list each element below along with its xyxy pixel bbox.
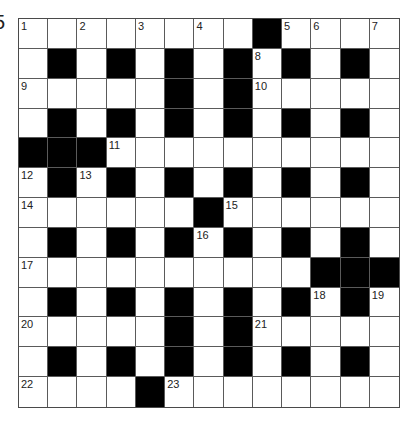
answer-cell[interactable]	[311, 228, 340, 258]
answer-cell[interactable]	[341, 317, 370, 347]
answer-cell[interactable]: 6	[311, 19, 340, 49]
answer-cell[interactable]	[311, 198, 340, 228]
answer-cell[interactable]: 22	[19, 377, 48, 407]
answer-cell[interactable]: 1	[19, 19, 48, 49]
answer-cell[interactable]	[370, 317, 399, 347]
answer-cell[interactable]	[19, 288, 48, 318]
answer-cell[interactable]	[370, 347, 399, 377]
answer-cell[interactable]	[77, 228, 106, 258]
answer-cell[interactable]	[282, 198, 311, 228]
answer-cell[interactable]: 23	[165, 377, 194, 407]
answer-cell[interactable]	[107, 79, 136, 109]
answer-cell[interactable]	[253, 228, 282, 258]
answer-cell[interactable]	[253, 288, 282, 318]
answer-cell[interactable]: 9	[19, 79, 48, 109]
answer-cell[interactable]	[194, 288, 223, 318]
answer-cell[interactable]	[194, 258, 223, 288]
answer-cell[interactable]	[253, 347, 282, 377]
answer-cell[interactable]	[48, 19, 77, 49]
answer-cell[interactable]	[77, 317, 106, 347]
answer-cell[interactable]	[136, 198, 165, 228]
answer-cell[interactable]	[370, 168, 399, 198]
answer-cell[interactable]	[253, 198, 282, 228]
answer-cell[interactable]	[77, 109, 106, 139]
answer-cell[interactable]: 3	[136, 19, 165, 49]
answer-cell[interactable]	[370, 198, 399, 228]
answer-cell[interactable]	[136, 228, 165, 258]
answer-cell[interactable]: 14	[19, 198, 48, 228]
answer-cell[interactable]	[165, 138, 194, 168]
answer-cell[interactable]	[311, 138, 340, 168]
answer-cell[interactable]	[311, 109, 340, 139]
answer-cell[interactable]	[136, 49, 165, 79]
answer-cell[interactable]	[311, 168, 340, 198]
answer-cell[interactable]	[370, 228, 399, 258]
answer-cell[interactable]	[136, 258, 165, 288]
answer-cell[interactable]: 10	[253, 79, 282, 109]
answer-cell[interactable]	[107, 198, 136, 228]
answer-cell[interactable]	[253, 168, 282, 198]
answer-cell[interactable]	[77, 79, 106, 109]
answer-cell[interactable]	[370, 138, 399, 168]
answer-cell[interactable]	[194, 317, 223, 347]
answer-cell[interactable]	[370, 377, 399, 407]
answer-cell[interactable]	[253, 258, 282, 288]
answer-cell[interactable]	[136, 79, 165, 109]
answer-cell[interactable]	[311, 79, 340, 109]
answer-cell[interactable]	[194, 168, 223, 198]
answer-cell[interactable]: 8	[253, 49, 282, 79]
answer-cell[interactable]	[341, 138, 370, 168]
answer-cell[interactable]	[194, 49, 223, 79]
answer-cell[interactable]	[370, 49, 399, 79]
answer-cell[interactable]	[165, 19, 194, 49]
answer-cell[interactable]	[282, 258, 311, 288]
answer-cell[interactable]	[282, 79, 311, 109]
answer-cell[interactable]	[224, 258, 253, 288]
answer-cell[interactable]	[77, 198, 106, 228]
answer-cell[interactable]	[19, 109, 48, 139]
answer-cell[interactable]	[341, 79, 370, 109]
answer-cell[interactable]	[77, 288, 106, 318]
answer-cell[interactable]: 13	[77, 168, 106, 198]
answer-cell[interactable]	[136, 168, 165, 198]
answer-cell[interactable]	[370, 109, 399, 139]
answer-cell[interactable]	[19, 228, 48, 258]
answer-cell[interactable]: 21	[253, 317, 282, 347]
answer-cell[interactable]	[48, 317, 77, 347]
answer-cell[interactable]	[341, 377, 370, 407]
answer-cell[interactable]	[136, 317, 165, 347]
answer-cell[interactable]: 19	[370, 288, 399, 318]
answer-cell[interactable]	[194, 138, 223, 168]
answer-cell[interactable]	[77, 347, 106, 377]
answer-cell[interactable]	[282, 317, 311, 347]
answer-cell[interactable]	[253, 138, 282, 168]
answer-cell[interactable]: 7	[370, 19, 399, 49]
answer-cell[interactable]	[341, 19, 370, 49]
answer-cell[interactable]: 2	[77, 19, 106, 49]
answer-cell[interactable]	[136, 347, 165, 377]
answer-cell[interactable]: 20	[19, 317, 48, 347]
answer-cell[interactable]	[165, 198, 194, 228]
answer-cell[interactable]	[370, 79, 399, 109]
answer-cell[interactable]	[107, 19, 136, 49]
answer-cell[interactable]	[165, 258, 194, 288]
answer-cell[interactable]	[282, 377, 311, 407]
answer-cell[interactable]	[48, 79, 77, 109]
answer-cell[interactable]	[194, 79, 223, 109]
answer-cell[interactable]	[253, 377, 282, 407]
answer-cell[interactable]: 5	[282, 19, 311, 49]
answer-cell[interactable]	[48, 198, 77, 228]
answer-cell[interactable]: 17	[19, 258, 48, 288]
answer-cell[interactable]	[107, 258, 136, 288]
answer-cell[interactable]	[77, 49, 106, 79]
answer-cell[interactable]	[77, 258, 106, 288]
answer-cell[interactable]	[253, 109, 282, 139]
answer-cell[interactable]	[194, 377, 223, 407]
answer-cell[interactable]: 4	[194, 19, 223, 49]
answer-cell[interactable]	[48, 258, 77, 288]
answer-cell[interactable]	[194, 109, 223, 139]
answer-cell[interactable]: 18	[311, 288, 340, 318]
answer-cell[interactable]	[48, 377, 77, 407]
answer-cell[interactable]: 11	[107, 138, 136, 168]
answer-cell[interactable]: 16	[194, 228, 223, 258]
